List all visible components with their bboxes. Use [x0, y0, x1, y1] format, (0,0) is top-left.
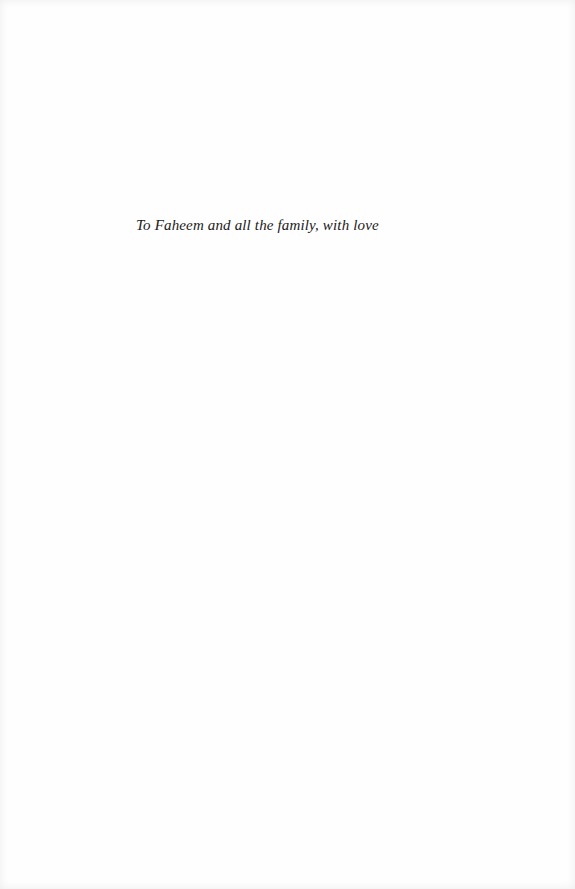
- book-page: To Faheem and all the family, with love: [0, 0, 575, 889]
- dedication-text: To Faheem and all the family, with love: [136, 216, 379, 234]
